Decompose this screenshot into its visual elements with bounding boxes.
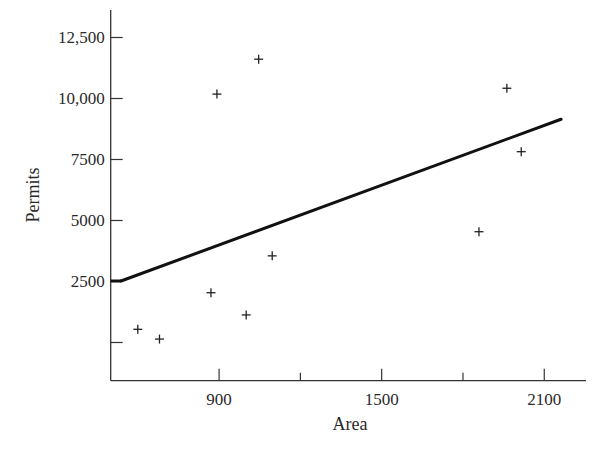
y-tick-label: 7500 [71, 150, 105, 169]
scatter-chart: 9001500210025005000750010,00012,500 Area… [0, 0, 601, 452]
x-axis-title: Area [333, 414, 368, 434]
ticks: 9001500210025005000750010,00012,500 [58, 28, 561, 408]
regression-line [111, 119, 561, 281]
plus-marker [502, 84, 511, 93]
plus-marker [474, 227, 483, 236]
plus-marker [155, 335, 164, 344]
plus-marker [212, 90, 221, 99]
y-axis-title: Permits [23, 167, 43, 222]
plus-marker [254, 55, 263, 64]
plus-marker [133, 325, 142, 334]
fitted-line [121, 119, 561, 281]
y-tick-label: 5000 [71, 211, 105, 230]
plus-marker [268, 251, 277, 260]
axes [111, 10, 586, 381]
x-tick-label: 2100 [527, 390, 561, 409]
x-tick-label: 900 [206, 390, 232, 409]
plus-marker [206, 288, 215, 297]
plus-marker [517, 147, 526, 156]
y-tick-label: 12,500 [58, 28, 105, 47]
y-tick-label: 2500 [71, 272, 105, 291]
plus-marker [242, 310, 251, 319]
y-tick-label: 10,000 [58, 89, 105, 108]
data-points [133, 55, 525, 344]
x-tick-label: 1500 [365, 390, 399, 409]
